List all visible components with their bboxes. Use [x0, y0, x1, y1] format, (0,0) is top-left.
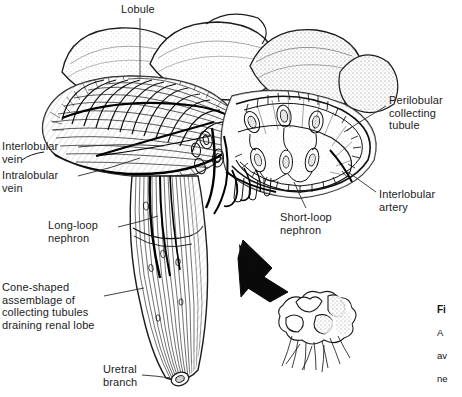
label-lobule: Lobule [121, 3, 155, 16]
magnification-arrow [238, 240, 288, 302]
label-interlobular-artery: Interlobular artery [379, 188, 435, 213]
label-short-loop-nephron: Short-loop nephron [280, 211, 332, 236]
label-interlobular-vein: Interlobular vein [2, 140, 58, 165]
collecting-tubule-cone [130, 176, 208, 388]
label-perilobular-collecting-tubule: Perilobular collecting tubule [389, 94, 443, 132]
label-uretral-branch: Uretral branch [103, 363, 137, 388]
caption-line-2: av [437, 350, 447, 361]
label-intralobular-vein: Intralobular vein [2, 169, 58, 194]
caption-figure-number: Fi [437, 304, 446, 315]
caption-line-3: ne [437, 373, 448, 384]
label-cone-shaped-assemblage: Cone-shaped assemblage of collecting tub… [2, 281, 95, 331]
figure-root: Lobule Interlobular vein Intralobular ve… [0, 0, 462, 397]
caption-line-1: A [437, 327, 443, 338]
figure-caption: Fi A av ne th Af [437, 292, 462, 388]
whole-kidney-inset [279, 291, 356, 372]
label-long-loop-nephron: Long-loop nephron [48, 219, 98, 244]
